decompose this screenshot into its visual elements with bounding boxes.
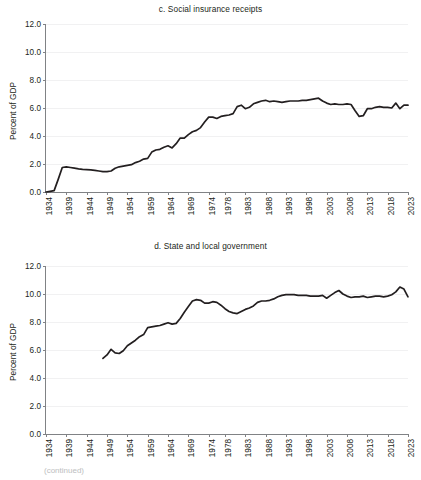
x-tick-mark [66, 192, 67, 195]
panel-c-plot-area: 0.02.04.06.08.010.012.019341939194419491… [46, 24, 408, 192]
x-tick-label: 1939 [65, 197, 74, 215]
y-tick-label: 2.0 [30, 160, 41, 169]
y-tick-label: 10.0 [25, 48, 41, 57]
x-tick-mark [148, 192, 149, 195]
x-tick-label: 1974 [207, 197, 216, 215]
y-tick-label: 0.0 [30, 188, 41, 197]
x-tick-mark [148, 434, 149, 437]
chart-panel-state-and-local-government: d. State and local government Percent of… [0, 236, 421, 480]
x-tick-mark [327, 192, 328, 195]
y-tick-label: 12.0 [25, 20, 41, 29]
x-tick-label: 1959 [146, 197, 155, 215]
x-axis-baseline [46, 434, 408, 435]
x-tick-mark [188, 434, 189, 437]
x-tick-mark [388, 192, 389, 195]
y-tick-label: 2.0 [30, 402, 41, 411]
x-tick-mark [408, 192, 409, 195]
x-tick-mark [266, 434, 267, 437]
x-tick-label: 1978 [223, 197, 232, 215]
y-tick-label: 4.0 [30, 374, 41, 383]
x-tick-label: 1969 [187, 439, 196, 457]
x-tick-label: 2023 [407, 439, 416, 457]
x-tick-label: 2018 [386, 439, 395, 457]
x-tick-label: 1944 [85, 197, 94, 215]
x-tick-mark [168, 192, 169, 195]
data-series-line [103, 287, 408, 358]
x-tick-mark [209, 192, 210, 195]
x-tick-label: 1934 [45, 439, 54, 457]
x-tick-label: 2003 [325, 439, 334, 457]
x-tick-mark [107, 434, 108, 437]
x-tick-mark [127, 192, 128, 195]
x-tick-mark [266, 192, 267, 195]
x-tick-mark [87, 192, 88, 195]
panel-d-yaxis-title: Percent of GDP [8, 323, 18, 381]
x-tick-label: 1959 [146, 439, 155, 457]
x-tick-label: 1998 [305, 439, 314, 457]
x-tick-mark [347, 192, 348, 195]
x-tick-label: 1949 [106, 197, 115, 215]
series-layer [46, 266, 408, 434]
x-tick-mark [388, 434, 389, 437]
x-tick-mark [286, 434, 287, 437]
x-tick-mark [66, 434, 67, 437]
panel-d-title: d. State and local government [0, 241, 421, 251]
x-tick-label: 2008 [345, 197, 354, 215]
series-layer [46, 24, 408, 192]
chart-panel-social-insurance-receipts: c. Social insurance receipts Percent of … [0, 0, 421, 236]
panel-c-yaxis-title: Percent of GDP [8, 82, 18, 140]
x-tick-label: 1983 [244, 197, 253, 215]
x-tick-mark [306, 434, 307, 437]
x-tick-mark [87, 434, 88, 437]
y-tick-label: 6.0 [30, 104, 41, 113]
x-tick-label: 1969 [187, 197, 196, 215]
x-axis-baseline [46, 192, 408, 193]
x-tick-mark [225, 434, 226, 437]
x-tick-label: 2008 [345, 439, 354, 457]
y-tick-label: 8.0 [30, 318, 41, 327]
x-tick-label: 1944 [85, 439, 94, 457]
panel-d-plot-area: 0.02.04.06.08.010.012.019341939194419491… [46, 266, 408, 434]
x-tick-mark [46, 434, 47, 437]
y-tick-label: 6.0 [30, 346, 41, 355]
y-tick-label: 10.0 [25, 290, 41, 299]
x-tick-label: 1998 [305, 197, 314, 215]
y-tick-label: 4.0 [30, 132, 41, 141]
x-tick-mark [245, 434, 246, 437]
x-tick-label: 1988 [264, 197, 273, 215]
x-tick-mark [286, 192, 287, 195]
y-tick-label: 0.0 [30, 430, 41, 439]
x-tick-mark [225, 192, 226, 195]
x-tick-label: 1974 [207, 439, 216, 457]
x-tick-label: 1954 [126, 439, 135, 457]
x-tick-mark [347, 434, 348, 437]
x-tick-label: 1964 [167, 439, 176, 457]
y-tick-label: 12.0 [25, 262, 41, 271]
x-tick-label: 1993 [284, 439, 293, 457]
x-tick-label: 1983 [244, 439, 253, 457]
x-tick-mark [245, 192, 246, 195]
x-tick-mark [327, 434, 328, 437]
x-tick-label: 1954 [126, 197, 135, 215]
x-tick-label: 1939 [65, 439, 74, 457]
x-tick-label: 1993 [284, 197, 293, 215]
footer-continued-note: (continued) [44, 466, 84, 475]
x-tick-label: 2018 [386, 197, 395, 215]
x-tick-label: 2003 [325, 197, 334, 215]
x-tick-label: 2023 [407, 197, 416, 215]
x-tick-mark [367, 192, 368, 195]
x-tick-mark [367, 434, 368, 437]
x-tick-mark [127, 434, 128, 437]
x-tick-mark [188, 192, 189, 195]
y-tick-label: 8.0 [30, 76, 41, 85]
x-tick-mark [306, 192, 307, 195]
x-tick-label: 1934 [45, 197, 54, 215]
x-tick-mark [408, 434, 409, 437]
x-tick-mark [107, 192, 108, 195]
x-tick-label: 2013 [366, 197, 375, 215]
x-tick-label: 1964 [167, 197, 176, 215]
panel-c-title: c. Social insurance receipts [0, 4, 421, 14]
x-tick-mark [209, 434, 210, 437]
data-series-line [46, 98, 408, 192]
x-tick-mark [168, 434, 169, 437]
